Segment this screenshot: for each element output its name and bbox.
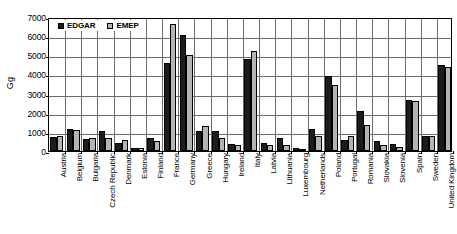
legend-entry-emep: EMEP [107,21,138,30]
y-tick-label: 5000 [27,51,46,61]
bar-emep [219,138,225,151]
y-tick-label: 1000 [27,128,46,138]
x-tick-label: Ireland [237,153,246,177]
x-axis-tick-labels: AustriaBelgiumBulgariaCzech RepublicDenm… [48,153,452,234]
bar-group [114,19,130,151]
plot-area [48,18,452,152]
bar-group [405,19,421,151]
x-tick-label: Romania [366,153,375,184]
legend-entry-edgar: EDGAR [58,21,95,30]
bar-emep [154,141,160,151]
bar-emep [170,24,176,151]
bar-emep [105,138,111,151]
bar-group [146,19,162,151]
x-tick-label: Belgium [75,153,84,181]
bar-group [421,19,437,151]
bar-group [130,19,146,151]
y-axis-title: Gg [5,77,15,89]
bar-group [324,19,340,151]
x-tick-label: France [172,153,181,177]
y-axis-tick-labels: 70006000500040003000200010000 [16,14,46,152]
gray-square-swatch-icon [107,23,113,29]
bar-emep [73,130,79,151]
x-tick-label: Greece [205,153,214,179]
bar-emep [315,136,321,151]
bar-emep [332,85,338,151]
x-tick-label: Germany [188,153,197,185]
bar-group [308,19,324,151]
legend-label-emep: EMEP [116,21,138,30]
bar-group [340,19,356,151]
bar-group [291,19,307,151]
x-tick-label: Spain [415,153,424,173]
bar-emep [186,55,192,151]
y-tick-label: 0 [41,147,46,157]
x-tick-label: Poland [334,153,343,177]
x-tick-label: Luxembourg [301,153,310,196]
bar-group [49,19,65,151]
bar-group [356,19,372,151]
black-square-swatch-icon [58,23,64,29]
bar-group [81,19,97,151]
bar-emep [267,145,273,151]
bar-group [372,19,388,151]
x-tick-label: Portugal [350,153,359,182]
bar-group [388,19,404,151]
bar-emep [380,145,386,152]
x-tick-label: Slovenia [398,153,407,183]
bar-group [243,19,259,151]
x-tick-label: Czech Republic [108,153,117,208]
y-tick-label: 3000 [27,90,46,100]
chart-figure: Gg 70006000500040003000200010000 EDGAR E… [0,0,457,234]
bar-group [211,19,227,151]
x-tick-label: Italy [253,153,262,167]
legend-label-edgar: EDGAR [67,21,95,30]
bar-series-container [49,19,451,151]
bar-group [437,19,453,151]
x-tick-label: Denmark [124,153,133,185]
bar-emep [299,149,305,151]
bar-emep [364,125,370,151]
bar-group [227,19,243,151]
x-tick-label: Slovakia [382,153,391,182]
chart-legend: EDGAR EMEP [56,20,143,31]
bar-group [178,19,194,151]
bar-emep [138,148,144,151]
bar-group [275,19,291,151]
bar-emep [122,140,128,151]
x-tick-label: Austria [59,153,68,177]
bar-group [194,19,210,151]
y-tick-label: 6000 [27,32,46,42]
bar-group [162,19,178,151]
bar-emep [283,145,289,151]
bar-emep [412,101,418,151]
bar-emep [445,67,451,151]
bar-emep [235,145,241,151]
x-tick-label: Netherlands [318,153,327,195]
bar-group [259,19,275,151]
bar-group [65,19,81,151]
x-tick-label: Hungary [221,153,230,183]
x-tick-label: Lithuania [285,153,294,185]
x-tick-label: Sweden [431,153,440,181]
y-tick-label: 2000 [27,109,46,119]
x-tick-label: United Kingdom [447,153,456,209]
x-tick-label: Bulgaria [91,153,100,182]
bar-emep [348,136,354,151]
y-tick-label: 7000 [27,13,46,23]
bar-emep [396,147,402,151]
bar-emep [251,51,257,151]
x-tick-label: Finland [156,153,165,179]
bar-emep [57,136,63,151]
bar-emep [202,126,208,151]
bar-emep [89,138,95,151]
y-tick-label: 4000 [27,70,46,80]
x-tick-label: Latvia [269,153,278,174]
bar-emep [429,136,435,151]
x-tick-label: Estonia [140,153,149,179]
bar-group [97,19,113,151]
